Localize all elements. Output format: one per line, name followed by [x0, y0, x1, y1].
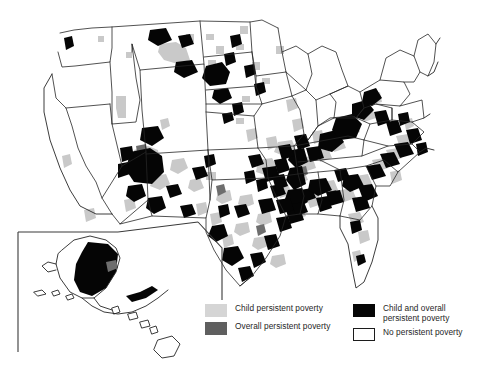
legend-item-none: No persistent poverty: [353, 327, 462, 341]
alaska-inset: [34, 236, 168, 314]
legend-item-overall: Overall persistent poverty: [205, 321, 330, 335]
legend-column-left: Child persistent poverty Overall persist…: [205, 303, 330, 339]
legend-label-child: Child persistent poverty: [235, 303, 323, 313]
white-swatch: [353, 328, 375, 341]
legend-column-right: Child and overall persistent poverty No …: [353, 303, 462, 345]
dark-gray-swatch: [205, 322, 227, 335]
legend-item-both: Child and overall persistent poverty: [353, 303, 462, 323]
legend-label-overall: Overall persistent poverty: [235, 321, 330, 331]
poverty-map-figure: Child persistent poverty Overall persist…: [0, 0, 477, 375]
legend-label-none: No persistent poverty: [383, 327, 462, 337]
legend-label-both: Child and overall persistent poverty: [383, 303, 449, 323]
inset-divider-lines: [18, 222, 222, 352]
map-legend: Child persistent poverty Overall persist…: [205, 303, 477, 361]
light-gray-swatch: [205, 304, 227, 317]
black-swatch: [353, 304, 375, 317]
legend-item-child: Child persistent poverty: [205, 303, 330, 317]
